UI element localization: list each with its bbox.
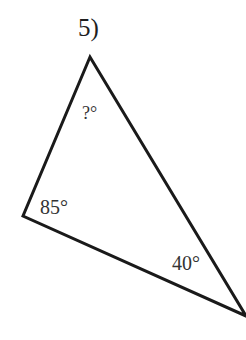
triangle (23, 57, 246, 316)
angle-label-right: 40° (172, 252, 200, 275)
angle-label-left: 85° (40, 196, 68, 219)
angle-label-top-unknown: ?° (82, 103, 97, 124)
triangle-diagram (0, 0, 246, 340)
